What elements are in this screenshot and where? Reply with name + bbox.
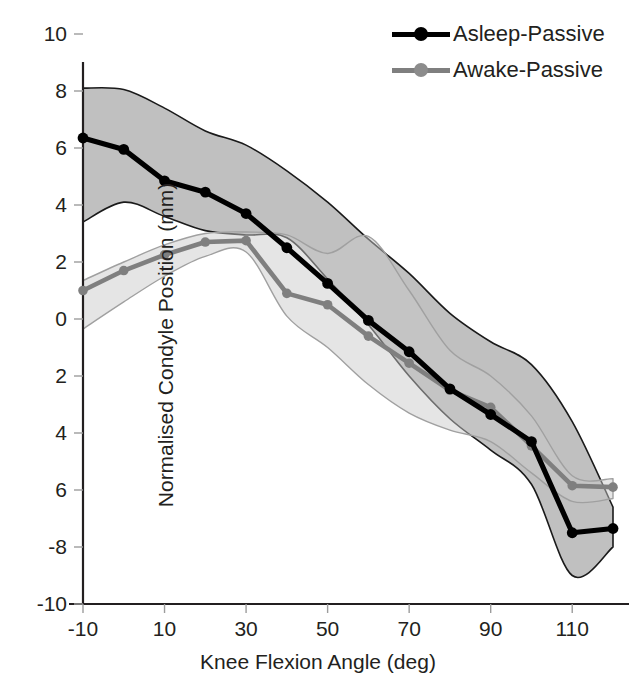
y-axis-tick-label: 2 [0, 365, 67, 386]
chart-legend: Asleep-Passive Awake-Passive [392, 16, 632, 88]
data-point-marker [282, 289, 292, 299]
data-point-marker [608, 482, 618, 492]
data-point-marker [608, 523, 619, 534]
data-point-marker [78, 286, 88, 296]
x-axis-tick-label: 110 [532, 618, 612, 639]
x-axis-tick-label: -10 [43, 618, 123, 639]
data-point-marker [445, 383, 456, 394]
y-axis-title: Normalised Condyle Position (mm) [154, 183, 178, 507]
y-axis-tick-label: 0 [0, 308, 67, 329]
data-point-marker [281, 242, 292, 253]
x-axis-tick-label: 90 [451, 618, 531, 639]
x-axis-tick-label: 70 [369, 618, 449, 639]
data-point-marker [364, 331, 374, 341]
data-point-marker [241, 208, 252, 219]
y-axis-tick-label: 8 [0, 80, 67, 101]
y-axis-tick-label: 2 [0, 251, 67, 272]
data-point-marker [526, 436, 537, 447]
data-point-marker [363, 315, 374, 326]
data-point-marker [567, 527, 578, 538]
data-point-marker [200, 187, 211, 198]
data-point-marker [119, 266, 129, 276]
data-point-marker [485, 409, 496, 420]
x-axis-tick-label: 50 [288, 618, 368, 639]
data-point-marker [78, 133, 89, 144]
legend-item-awake-passive: Awake-Passive [392, 52, 632, 88]
chart-plot-area [0, 0, 636, 690]
data-point-marker [322, 278, 333, 289]
legend-marker-icon [414, 27, 428, 41]
y-axis-tick-label: -8 [0, 536, 67, 557]
legend-swatch-asleep-passive [392, 25, 450, 43]
data-point-marker [404, 358, 414, 368]
legend-label-awake-passive: Awake-Passive [450, 57, 603, 83]
x-axis-tick-label: 10 [125, 618, 205, 639]
legend-marker-icon [414, 63, 428, 77]
y-axis-tick-label: -10 [0, 593, 67, 614]
data-point-marker [323, 300, 333, 310]
y-axis-tick-label: 4 [0, 422, 67, 443]
data-point-marker [118, 144, 129, 155]
legend-item-asleep-passive: Asleep-Passive [392, 16, 632, 52]
y-axis-tick-label: 6 [0, 479, 67, 500]
y-axis-tick-label: 4 [0, 194, 67, 215]
y-axis-tick-label: 10 [0, 23, 67, 44]
data-point-marker [201, 237, 211, 247]
chart-figure: 1086420246-8-10 -101030507090110 Normali… [0, 0, 636, 690]
data-point-marker [567, 481, 577, 491]
x-axis-title: Knee Flexion Angle (deg) [0, 650, 636, 674]
y-axis-tick-label: 6 [0, 137, 67, 158]
data-point-marker [241, 236, 251, 246]
data-point-marker [404, 346, 415, 357]
legend-label-asleep-passive: Asleep-Passive [450, 21, 605, 47]
x-axis-tick-label: 30 [206, 618, 286, 639]
legend-swatch-awake-passive [392, 61, 450, 79]
